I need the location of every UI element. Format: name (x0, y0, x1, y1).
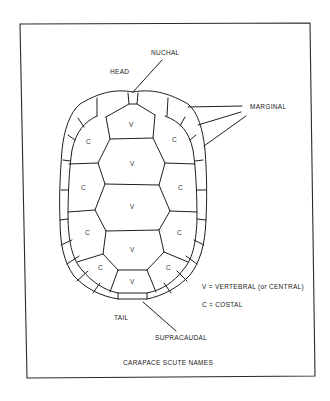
nuchal-scute (128, 93, 138, 104)
marginal-divider (194, 240, 204, 245)
head-label: HEAD (110, 69, 129, 76)
nuchal-label: NUCHAL (151, 50, 180, 57)
marginal-divider (60, 219, 68, 220)
costal-divider (77, 254, 103, 262)
marginal-divider (180, 117, 185, 126)
costal-divider (68, 210, 95, 212)
marginal-leader-line-1 (188, 106, 242, 107)
marginal-leader-line-3 (204, 116, 246, 146)
costal-divider (170, 211, 197, 212)
supracaudal-scute (118, 293, 147, 299)
marginal-divider (68, 135, 75, 140)
marginal-divider (167, 98, 168, 116)
supracaudal-label: SUPRACAUDAL (155, 335, 207, 342)
marginal-divider (195, 160, 203, 161)
supracaudal-leader-line (143, 302, 176, 331)
tail-label: TAIL (114, 315, 128, 322)
marginal-divider (197, 219, 206, 220)
costal-label-left-1: C (86, 139, 91, 146)
marginal-divider (63, 160, 70, 161)
marginal-leader-line-2 (198, 112, 241, 125)
costal-label-left-2: C (81, 185, 86, 192)
costal-label-right-4: C (166, 265, 171, 272)
costal-divider (69, 163, 98, 164)
legend-vertebral: V = VERTEBRAL (or CENTRAL) (202, 284, 304, 291)
marginal-divider (77, 271, 88, 281)
costal-label-right-2: C (178, 185, 183, 192)
marginal-divider (93, 283, 100, 293)
costal-divider (164, 252, 188, 262)
costal-label-left-4: C (98, 265, 103, 272)
marginal-divider (190, 135, 196, 140)
costal-label-right-3: C (177, 230, 182, 237)
figure-caption: CARAPACE SCUTE NAMES (123, 360, 213, 367)
vertebral-label-5: V (130, 279, 134, 286)
vertebral-label-3: V (130, 204, 134, 211)
costal-divider (165, 163, 195, 164)
vertebral-label-2: V (130, 161, 134, 168)
costal-label-left-3: C (85, 230, 90, 237)
nuchal-leader-line (134, 60, 162, 91)
vertebral-label-1: V (129, 122, 133, 129)
figure-border (20, 23, 315, 378)
vertebral-label-4: V (130, 247, 134, 254)
diagram-figure: NUCHAL HEAD MARGINAL TAIL SUPRACAUDAL V … (0, 0, 330, 401)
costal-label-right-1: C (172, 137, 177, 144)
marginal-label: MARGINAL (250, 104, 286, 111)
legend-costal: C = COSTAL (202, 302, 243, 309)
marginal-divider (78, 118, 84, 127)
